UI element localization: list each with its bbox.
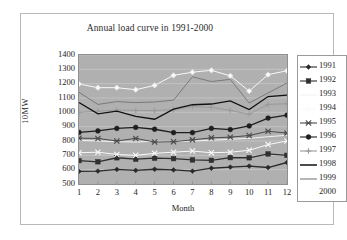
x-tick-label: 12 <box>278 187 296 197</box>
legend-label: 1995 <box>319 115 336 127</box>
chart-legend: 1991199219931994199519961997199819992000 <box>297 55 347 202</box>
plot-svg <box>79 55 287 184</box>
series-1997 <box>79 101 287 117</box>
x-axis-title: Month <box>78 203 288 213</box>
x-tick-label: 6 <box>165 187 183 197</box>
legend-label: 1992 <box>319 73 336 85</box>
series-1998 <box>79 95 287 119</box>
y-axis-title: 10MW <box>20 98 30 124</box>
series-2000 <box>79 67 287 94</box>
legend-item-1995[interactable]: 1995 <box>298 114 346 128</box>
legend-marker-2000-icon <box>298 185 319 197</box>
x-axis-tick-labels: 123456789101112 <box>78 187 288 201</box>
y-tick-label: 1000 <box>49 107 75 116</box>
legend-item-1993[interactable]: 1993 <box>298 86 346 100</box>
chart-screenshot: Annual load curve in 1991-2000 10MW 5006… <box>0 0 347 240</box>
y-tick-label: 900 <box>49 121 75 130</box>
x-tick-label: 7 <box>183 187 201 197</box>
y-tick-label: 1200 <box>49 78 75 87</box>
legend-marker-1991-icon <box>298 59 319 71</box>
legend-item-2000[interactable]: 2000 <box>298 184 346 198</box>
x-tick-label: 9 <box>221 187 239 197</box>
x-tick-label: 2 <box>89 187 107 197</box>
legend-marker-1992-icon <box>298 73 319 85</box>
x-tick-label: 5 <box>146 187 164 197</box>
legend-marker-1994-icon <box>298 101 319 113</box>
legend-item-1999[interactable]: 1999 <box>298 170 346 184</box>
legend-label: 1998 <box>319 157 336 169</box>
legend-label: 1993 <box>319 87 336 99</box>
legend-item-1996[interactable]: 1996 <box>298 128 346 142</box>
legend-marker-1997-icon <box>298 143 319 155</box>
legend-item-1997[interactable]: 1997 <box>298 142 346 156</box>
y-tick-label: 1400 <box>49 50 75 59</box>
x-tick-label: 8 <box>202 187 220 197</box>
legend-label: 1999 <box>319 171 336 183</box>
y-tick-label: 800 <box>49 136 75 145</box>
series-1995 <box>79 129 287 145</box>
legend-marker-1999-icon <box>298 171 319 183</box>
legend-item-1998[interactable]: 1998 <box>298 156 346 170</box>
chart-frame: Annual load curve in 1991-2000 10MW 5006… <box>20 13 334 225</box>
legend-label: 1991 <box>319 59 336 71</box>
legend-label: 1996 <box>319 129 336 141</box>
legend-item-1991[interactable]: 1991 <box>298 58 346 72</box>
legend-marker-1996-icon <box>298 129 319 141</box>
y-tick-label: 600 <box>49 164 75 173</box>
legend-marker-1998-icon <box>298 157 319 169</box>
x-tick-label: 11 <box>259 187 277 197</box>
legend-label: 1997 <box>319 143 336 155</box>
x-tick-label: 3 <box>108 187 126 197</box>
legend-marker-1993-icon <box>298 87 319 99</box>
y-tick-label: 700 <box>49 150 75 159</box>
series-1991 <box>79 160 287 174</box>
x-tick-label: 1 <box>70 187 88 197</box>
legend-item-1992[interactable]: 1992 <box>298 72 346 86</box>
legend-item-1994[interactable]: 1994 <box>298 100 346 114</box>
plot-area <box>78 54 288 185</box>
x-tick-label: 4 <box>127 187 145 197</box>
series-1999 <box>79 77 287 105</box>
y-tick-label: 1300 <box>49 64 75 73</box>
series-1996 <box>79 113 287 135</box>
x-tick-label: 10 <box>240 187 258 197</box>
y-tick-label: 1100 <box>49 93 75 102</box>
legend-label: 2000 <box>319 185 336 197</box>
legend-marker-1995-icon <box>298 115 319 127</box>
legend-label: 1994 <box>319 101 336 113</box>
